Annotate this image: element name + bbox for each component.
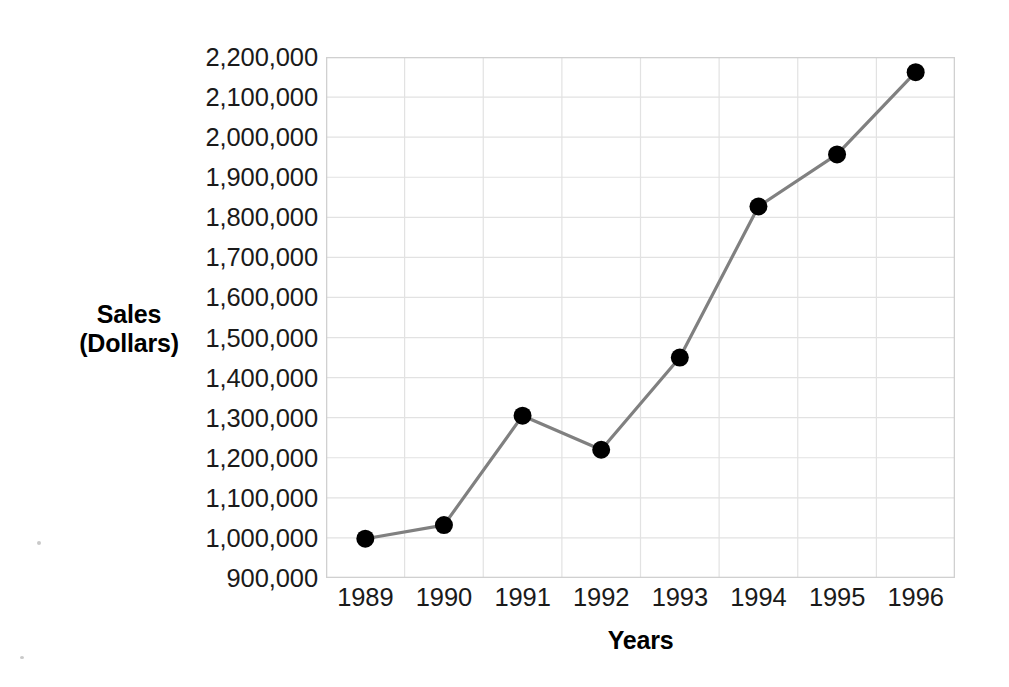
plot-area: 1989: 998,0001990: 1,032,0001991: 1,305,… bbox=[326, 57, 955, 578]
y-axis-tick-label: 1,300,000 bbox=[150, 403, 318, 432]
vertical-gridlines bbox=[326, 57, 955, 578]
y-axis-tick-label: 1,000,000 bbox=[150, 523, 318, 552]
sales-by-year-line-chart: Sales (Dollars) 900,0001,000,0001,100,00… bbox=[0, 0, 1009, 687]
y-axis-tick-label: 2,000,000 bbox=[150, 123, 318, 152]
x-axis-tick-label: 1996 bbox=[861, 583, 971, 612]
y-axis-tick-label: 1,700,000 bbox=[150, 243, 318, 272]
y-axis-tick-label: 1,200,000 bbox=[150, 443, 318, 472]
data-point-marker: 1991: 1,305,000 bbox=[514, 407, 532, 425]
data-point-marker: 1994: 1,827,000 bbox=[749, 197, 767, 215]
y-axis-tick-label: 1,500,000 bbox=[150, 323, 318, 352]
scan-artifact-left bbox=[37, 541, 41, 545]
scan-artifact-bottom bbox=[20, 656, 24, 659]
x-axis-tick-label-group: 19891990199119921993199419951996 bbox=[0, 583, 1009, 623]
y-axis-tick-label: 1,600,000 bbox=[150, 283, 318, 312]
data-point-marker: 1989: 998,000 bbox=[356, 530, 374, 548]
y-axis-tick-label: 2,100,000 bbox=[150, 83, 318, 112]
y-axis-tick-label: 1,100,000 bbox=[150, 483, 318, 512]
y-axis-tick-label: 1,800,000 bbox=[150, 203, 318, 232]
data-point-marker: 1990: 1,032,000 bbox=[435, 516, 453, 534]
data-point-marker: 1992: 1,220,000 bbox=[592, 441, 610, 459]
y-axis-tick-label: 1,400,000 bbox=[150, 363, 318, 392]
data-point-marker: 1996: 2,162,000 bbox=[907, 63, 925, 81]
y-axis-tick-label: 2,200,000 bbox=[150, 43, 318, 72]
data-point-marker: 1993: 1,450,000 bbox=[671, 349, 689, 367]
data-point-marker: 1995: 1,957,000 bbox=[828, 145, 846, 163]
plot-svg: 1989: 998,0001990: 1,032,0001991: 1,305,… bbox=[326, 57, 955, 578]
x-axis-title: Years bbox=[326, 626, 955, 655]
y-axis-tick-label: 1,900,000 bbox=[150, 163, 318, 192]
